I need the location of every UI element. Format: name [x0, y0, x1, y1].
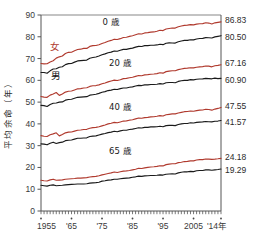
y-tick-label: 20 [26, 162, 36, 172]
y-axis-title-text: 平均余命（年） [3, 77, 13, 148]
x-tick-label: 1955 [37, 221, 56, 231]
end-value-label: 19.29 [225, 165, 247, 175]
end-value-label: 67.16 [225, 58, 247, 68]
age-group-label: 20 歳 [109, 58, 132, 68]
x-tick-label: '75 [96, 221, 107, 231]
life-expectancy-chart-figure: 0102030405060708090 1955'65'75'85'952005… [0, 0, 267, 241]
y-tick-label: 10 [26, 184, 36, 194]
chart-svg: 0102030405060708090 1955'65'75'85'952005… [0, 0, 267, 241]
x-major-marker [220, 218, 222, 220]
male-series-label: 男 [51, 70, 61, 81]
y-tick-label: 60 [26, 75, 36, 85]
y-tick-label: 70 [26, 54, 36, 64]
y-tick-label: 30 [26, 141, 36, 151]
age-group-label: 0 歳 [103, 17, 120, 27]
x-major-marker [162, 218, 164, 220]
y-tick-label: 90 [26, 10, 36, 20]
end-value-label: 60.90 [225, 75, 247, 85]
y-tick-label: 80 [26, 32, 36, 42]
end-value-label: 80.50 [225, 32, 247, 42]
x-tick-label: '85 [127, 221, 138, 231]
y-tick-label: 50 [26, 97, 36, 107]
end-value-label: 24.18 [225, 152, 247, 162]
end-value-label: 86.83 [225, 15, 247, 25]
x-tick-label: 2005 [184, 221, 203, 231]
y-tick-label: 40 [26, 119, 36, 129]
end-value-label: 47.55 [225, 101, 247, 111]
age-group-label: 40 歳 [109, 102, 132, 112]
end-value-label: 41.57 [225, 117, 247, 127]
y-axis-title: 平均余命（年） [3, 77, 13, 148]
female-series-label: 女 [50, 41, 60, 52]
x-major-marker [193, 218, 195, 220]
y-tick-label: 0 [30, 206, 35, 216]
x-tick-label: '65 [66, 221, 77, 231]
age-group-label: 65 歳 [109, 146, 132, 156]
x-major-marker [101, 218, 103, 220]
x-major-marker [40, 218, 42, 220]
x-major-marker [132, 218, 134, 220]
x-tick-label: '14年 [207, 221, 227, 231]
x-tick-label: '95 [157, 221, 168, 231]
x-axis-tick-labels: 1955'65'75'85'952005'14年 [37, 221, 227, 231]
x-major-marker [71, 218, 73, 220]
